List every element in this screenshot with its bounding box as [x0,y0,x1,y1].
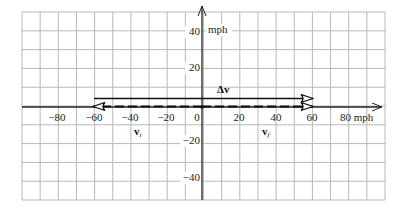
x-axis-unit-label: 80 mph [340,111,374,123]
velocity-vector-diagram: −80 −60 −40 −20 0 20 40 60 80 mph 40 20 … [0,0,401,213]
y-tick-label: 40 [189,25,201,37]
x-tick-label: −40 [121,111,139,123]
x-tick-labels: −80 −60 −40 −20 0 20 40 60 [48,111,318,123]
x-tick-label: 20 [234,111,246,123]
y-tick-label: −40 [183,171,201,183]
y-axis-unit-label: mph [208,23,228,35]
y-tick-labels: 40 20 −20 −40 [180,25,201,184]
y-tick-label: 20 [189,61,201,73]
x-tick-label: −60 [85,111,103,123]
x-tick-label: 60 [307,111,319,123]
x-tick-label: 40 [271,111,283,123]
v-final-label: vf [262,125,271,139]
y-tick-label: −20 [183,134,201,146]
v-initial-label: vi [134,125,142,139]
delta-v-label: Δv [217,83,230,95]
x-tick-label: −80 [48,111,66,123]
x-tick-label: 0 [194,111,200,123]
x-tick-label: −20 [157,111,175,123]
origin-dot [200,105,204,109]
